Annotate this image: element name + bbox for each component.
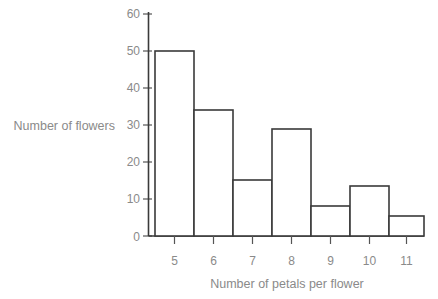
y-tick-label-10: 10: [127, 192, 141, 206]
y-tick-label-40: 40: [127, 81, 141, 95]
x-axis-title: Number of petals per flower: [210, 277, 364, 291]
bar-7[interactable]: [233, 180, 272, 236]
y-tick-label-0: 0: [133, 230, 140, 244]
bar-9[interactable]: [311, 206, 350, 236]
y-tick-label-50: 50: [127, 44, 141, 58]
y-tick-label-60: 60: [127, 7, 141, 21]
x-tick-label-11: 11: [400, 254, 413, 268]
x-tick-label-6: 6: [210, 254, 217, 268]
y-axis-title: Number of flowers: [14, 119, 115, 133]
bar-10[interactable]: [350, 186, 389, 236]
bar-chart: 60 50 40 30 20 10 0 5: [0, 0, 438, 299]
bar-5[interactable]: [155, 51, 194, 236]
bar-11[interactable]: [389, 216, 424, 236]
y-tick-label-30: 30: [127, 118, 141, 132]
x-tick-label-9: 9: [327, 254, 334, 268]
x-tick-label-5: 5: [171, 254, 178, 268]
y-tick-label-20: 20: [127, 155, 141, 169]
bar-6[interactable]: [194, 110, 233, 236]
chart-page: 60 50 40 30 20 10 0 5: [0, 0, 438, 299]
x-tick-label-7: 7: [249, 254, 256, 268]
x-tick-label-10: 10: [363, 254, 377, 268]
x-tick-label-8: 8: [288, 254, 295, 268]
bar-8[interactable]: [272, 129, 311, 236]
